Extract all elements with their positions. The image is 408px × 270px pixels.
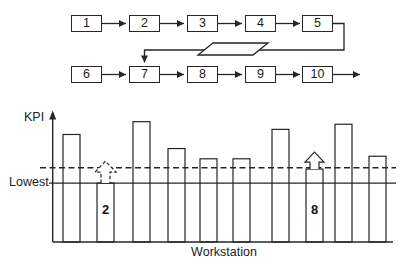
flow-box-label: 3: [199, 17, 206, 30]
kpi-bar-5: [200, 159, 217, 242]
flow-box-label: 7: [141, 68, 148, 81]
flow-box-label: 4: [257, 17, 264, 30]
flow-box-8: 8: [187, 66, 218, 83]
flow-box-label: 5: [314, 17, 321, 30]
flow-box-2: 2: [129, 15, 160, 32]
flow-box-3: 3: [187, 15, 218, 32]
kpi-chart: 28: [0, 0, 408, 270]
bars-group: 28: [40, 122, 396, 242]
flow-box-label: 1: [83, 17, 90, 30]
flow-box-7: 7: [129, 66, 160, 83]
flow-box-label: 10: [311, 68, 325, 81]
kpi-bar-1: [63, 134, 80, 242]
flow-box-10: 10: [302, 66, 333, 83]
improvement-up-arrow-icon: [95, 161, 116, 183]
kpi-bar-7: [272, 129, 289, 242]
bar-number-label: 8: [311, 202, 318, 217]
lowest-line-label: Lowest: [9, 176, 49, 189]
flow-box-label: 9: [257, 68, 264, 81]
flow-box-9: 9: [245, 66, 276, 83]
flow-box-6: 6: [71, 66, 102, 83]
y-axis-arrowhead-icon: [49, 111, 56, 120]
x-axis-label: Workstation: [164, 246, 284, 259]
y-axis-label: KPI: [24, 111, 44, 124]
flow-box-label: 2: [141, 17, 148, 30]
flow-box-label: 8: [199, 68, 206, 81]
flow-box-label: 6: [83, 68, 90, 81]
kpi-bar-10: [369, 156, 386, 242]
flow-box-4: 4: [245, 15, 276, 32]
kpi-bar-6: [233, 159, 250, 242]
figure: 1 2 3 4 5 6 7 8 9 10 28 KPI Lowest Works…: [0, 0, 408, 270]
bar-number-label: 2: [102, 202, 109, 217]
kpi-bar-4: [168, 149, 185, 242]
kpi-bar-3: [133, 122, 150, 242]
flow-box-5: 5: [302, 15, 333, 32]
flow-box-1: 1: [71, 15, 102, 32]
improvement-up-arrow-icon: [305, 152, 324, 169]
